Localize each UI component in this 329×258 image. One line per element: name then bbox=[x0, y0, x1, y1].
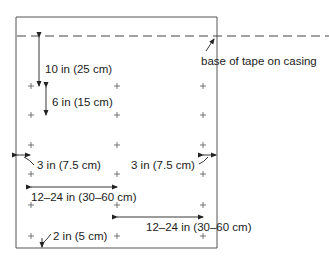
plus-marker bbox=[28, 112, 34, 118]
tape-spacing-diagram: base of tape on casing 10 in (25 cm) 6 i… bbox=[0, 0, 329, 258]
plus-marker bbox=[200, 171, 206, 177]
bottom-offset-leader bbox=[44, 234, 51, 242]
right-margin-label: 3 in (7.5 cm) bbox=[131, 159, 195, 171]
bottom-offset-label: 2 in (5 cm) bbox=[53, 230, 107, 242]
right-margin-leader bbox=[199, 157, 208, 164]
casing-outline bbox=[16, 17, 217, 248]
plus-marker bbox=[28, 233, 34, 239]
plus-marker bbox=[114, 171, 120, 177]
plus-marker bbox=[28, 142, 34, 148]
plus-marker bbox=[28, 83, 34, 89]
left-margin-label: 3 in (7.5 cm) bbox=[37, 159, 101, 171]
plus-marker bbox=[200, 202, 206, 208]
row-spacing-label: 6 in (15 cm) bbox=[52, 96, 113, 108]
base-of-tape-label: base of tape on casing bbox=[201, 55, 317, 67]
left-margin-leader bbox=[24, 157, 34, 165]
plus-marker bbox=[200, 83, 206, 89]
plus-marker bbox=[200, 142, 206, 148]
first-row-offset-label: 10 in (25 cm) bbox=[45, 63, 112, 75]
plus-marker bbox=[114, 112, 120, 118]
plus-marker bbox=[200, 233, 206, 239]
base-of-tape-leader-arrow bbox=[206, 39, 214, 51]
column-spacing-upper-label: 12–24 in (30–60 cm) bbox=[31, 191, 137, 203]
plus-marker bbox=[114, 142, 120, 148]
plus-marker bbox=[200, 112, 206, 118]
plus-marker bbox=[114, 233, 120, 239]
plus-marker bbox=[114, 83, 120, 89]
plus-marker bbox=[28, 171, 34, 177]
column-spacing-lower-label: 12–24 in (30–60 cm) bbox=[146, 221, 252, 233]
